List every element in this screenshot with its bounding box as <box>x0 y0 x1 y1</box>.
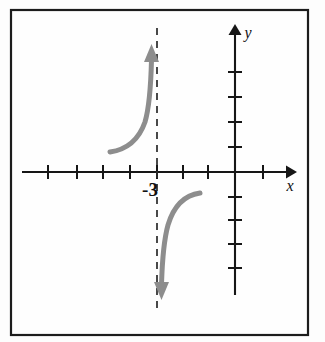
graph-figure: -3 x y <box>0 0 325 342</box>
asymptote-value-label: -3 <box>142 179 158 200</box>
figure-container: -3 x y <box>0 0 325 342</box>
y-axis-label: y <box>242 24 252 42</box>
x-axis-label: x <box>285 177 293 194</box>
